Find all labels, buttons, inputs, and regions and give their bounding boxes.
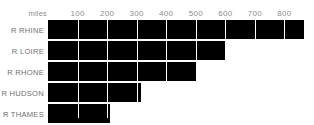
gridline <box>196 20 197 118</box>
category-label: R THAMES <box>0 110 44 119</box>
gridline <box>284 20 285 118</box>
x-axis-tick-label: 200 <box>100 8 114 19</box>
x-axis-tick-label: 700 <box>248 8 262 19</box>
bar <box>48 83 141 102</box>
gridline <box>166 20 167 118</box>
x-axis-tick-label: 500 <box>189 8 203 19</box>
bar <box>48 62 197 81</box>
category-label: R RHONE <box>0 68 44 77</box>
x-axis-header: miles 100200300400500600700800 <box>0 8 314 20</box>
bar <box>48 20 304 39</box>
gridline <box>107 20 108 118</box>
x-axis-tick-label: 100 <box>70 8 84 19</box>
x-axis-tick-label: 300 <box>130 8 144 19</box>
x-axis-tick-label: 800 <box>277 8 291 19</box>
gridline <box>78 20 79 118</box>
category-label: R RHINE <box>0 26 44 35</box>
river-length-bar-chart: miles 100200300400500600700800 R RHINER … <box>0 0 314 125</box>
gridline <box>137 20 138 118</box>
gridline <box>255 20 256 118</box>
category-axis-labels: R RHINER LOIRER RHONER HUDSONR THAMES <box>0 20 46 125</box>
category-label: R LOIRE <box>0 47 44 56</box>
category-label: R HUDSON <box>0 89 44 98</box>
x-axis-tick-label: 400 <box>159 8 173 19</box>
x-axis-unit-label: miles <box>21 8 47 19</box>
gridline <box>225 20 226 118</box>
bar <box>48 104 110 123</box>
x-axis-tick-label: 600 <box>218 8 232 19</box>
plot-area <box>48 20 314 125</box>
